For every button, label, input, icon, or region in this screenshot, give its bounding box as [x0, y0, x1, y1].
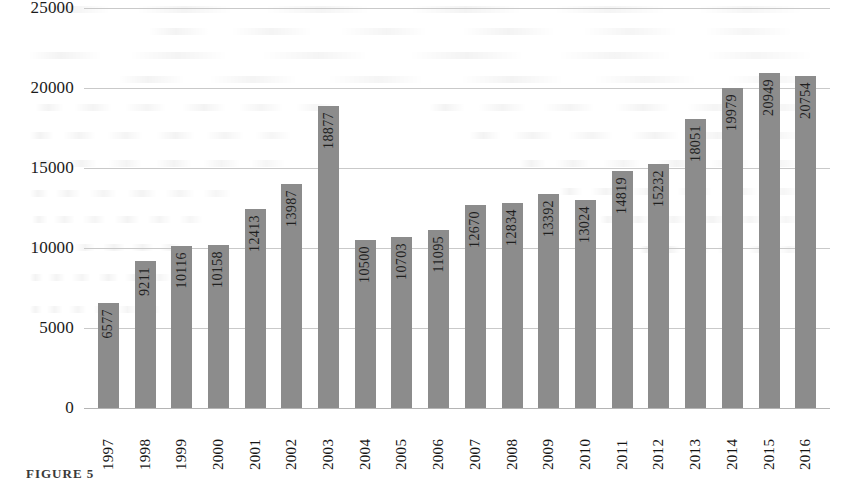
bar[interactable]: 12413	[245, 209, 266, 408]
y-tick-label: 10000	[31, 238, 75, 258]
y-tick-label: 5000	[39, 318, 74, 338]
x-label-slot: 2013	[677, 412, 714, 470]
bar-slot: 20754	[787, 8, 824, 408]
bar[interactable]: 10116	[171, 246, 192, 408]
x-label-slot: 2009	[530, 412, 567, 470]
bar-slot: 13392	[530, 8, 567, 408]
x-tick-label: 2015	[761, 412, 778, 470]
x-label-slot: 2003	[310, 412, 347, 470]
x-label-slot: 2014	[714, 412, 751, 470]
x-tick-label: 2001	[247, 412, 264, 470]
x-label-slot: 2006	[420, 412, 457, 470]
bar-value-label: 18877	[321, 112, 337, 149]
x-label-slot: 2002	[274, 412, 311, 470]
bar-value-label: 13392	[541, 200, 557, 237]
x-axis: 1997199819992000200120022003200420052006…	[84, 412, 830, 470]
bar-slot: 10703	[384, 8, 421, 408]
x-label-slot: 2016	[787, 412, 824, 470]
x-label-slot: 1997	[90, 412, 127, 470]
x-tick-label: 2010	[577, 412, 594, 470]
x-tick-label: 2011	[614, 412, 631, 470]
bar-slot: 20949	[751, 8, 788, 408]
bar-value-label: 20949	[761, 79, 777, 116]
x-tick-label: 1998	[137, 412, 154, 470]
x-tick-label: 2000	[210, 412, 227, 470]
bar-value-label: 10116	[174, 252, 190, 288]
bar[interactable]: 20949	[759, 73, 780, 408]
y-tick-label: 20000	[31, 78, 75, 98]
bar-value-label: 12413	[247, 215, 263, 252]
x-tick-label: 2002	[283, 412, 300, 470]
plot-area: 6577921110116101581241313987188771050010…	[84, 8, 830, 408]
bar-slot: 9211	[127, 8, 164, 408]
bar-series: 6577921110116101581241313987188771050010…	[84, 8, 830, 408]
bar-value-label: 14819	[614, 177, 630, 214]
y-tick-label: 0	[65, 398, 74, 418]
bar-slot: 11095	[420, 8, 457, 408]
x-tick-label: 2013	[687, 412, 704, 470]
y-axis: 0 5000 10000 15000 20000 25000	[0, 8, 74, 408]
bar-value-label: 19979	[724, 94, 740, 131]
bar[interactable]: 13987	[281, 184, 302, 408]
x-label-slot: 2010	[567, 412, 604, 470]
bar-value-label: 12670	[467, 211, 483, 248]
x-label-slot: 2001	[237, 412, 274, 470]
bar[interactable]: 18051	[685, 119, 706, 408]
bar[interactable]: 10703	[391, 237, 412, 408]
bar-slot: 19979	[714, 8, 751, 408]
figure-caption: FIGURE 5	[26, 466, 94, 478]
x-label-slot: 2007	[457, 412, 494, 470]
bar-value-label: 11095	[431, 236, 447, 272]
bar-value-label: 12834	[504, 209, 520, 246]
bar-slot: 18877	[310, 8, 347, 408]
bar-value-label: 13024	[577, 206, 593, 243]
x-tick-label: 2014	[724, 412, 741, 470]
bar[interactable]: 13392	[538, 194, 559, 408]
bar[interactable]: 6577	[98, 303, 119, 408]
bar-chart-figure: 0 5000 10000 15000 20000 25000 657792111…	[0, 0, 847, 478]
bar[interactable]: 9211	[135, 261, 156, 408]
x-tick-label: 2009	[540, 412, 557, 470]
bar[interactable]: 18877	[318, 106, 339, 408]
bar[interactable]: 12834	[502, 203, 523, 408]
bar[interactable]: 19979	[722, 88, 743, 408]
bar-value-label: 6577	[100, 309, 116, 339]
x-tick-label: 2003	[320, 412, 337, 470]
bar-value-label: 10158	[210, 251, 226, 288]
bar-slot: 18051	[677, 8, 714, 408]
bar-slot: 10158	[200, 8, 237, 408]
x-tick-label: 2006	[430, 412, 447, 470]
x-label-slot: 1999	[163, 412, 200, 470]
x-label-slot: 2015	[751, 412, 788, 470]
x-label-slot: 2004	[347, 412, 384, 470]
bar[interactable]: 14819	[612, 171, 633, 408]
x-label-slot: 2000	[200, 412, 237, 470]
y-tick-label: 15000	[31, 158, 75, 178]
x-tick-label: 2005	[393, 412, 410, 470]
bar-value-label: 9211	[137, 267, 153, 296]
bar-slot: 13987	[274, 8, 311, 408]
bar[interactable]: 12670	[465, 205, 486, 408]
bar-slot: 10500	[347, 8, 384, 408]
bar[interactable]: 11095	[428, 230, 449, 408]
x-tick-label: 2008	[504, 412, 521, 470]
bar-value-label: 18051	[688, 125, 704, 162]
gridline-baseline-0	[84, 408, 830, 409]
x-tick-label: 2016	[797, 412, 814, 470]
bar-value-label: 10500	[357, 246, 373, 283]
bar-slot: 13024	[567, 8, 604, 408]
bar-slot: 12834	[494, 8, 531, 408]
bar-slot: 14819	[604, 8, 641, 408]
bar-slot: 15232	[641, 8, 678, 408]
x-tick-label: 1997	[100, 412, 117, 470]
x-label-slot: 2005	[384, 412, 421, 470]
x-label-slot: 2011	[604, 412, 641, 470]
bar[interactable]: 13024	[575, 200, 596, 408]
bar-slot: 12670	[457, 8, 494, 408]
bar[interactable]: 20754	[795, 76, 816, 408]
bar[interactable]: 15232	[648, 164, 669, 408]
x-tick-label: 2004	[357, 412, 374, 470]
x-tick-label: 2012	[650, 412, 667, 470]
bar[interactable]: 10158	[208, 245, 229, 408]
bar[interactable]: 10500	[355, 240, 376, 408]
